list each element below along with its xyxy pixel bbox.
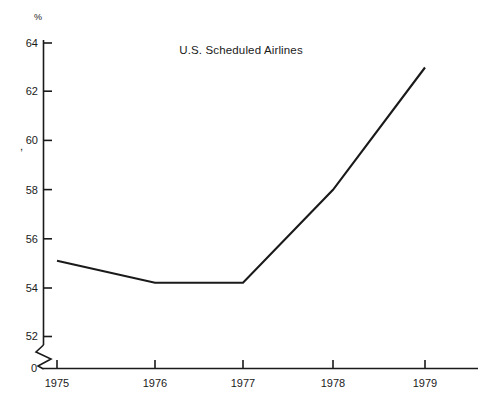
plot-area — [0, 0, 482, 415]
data-line-us-scheduled-airlines — [57, 68, 425, 283]
y-tick-marks — [44, 43, 53, 337]
x-tick-marks — [57, 360, 425, 369]
y-axis-break-symbol — [36, 345, 51, 369]
chart-container: % U.S. Scheduled Airlines , 64 62 60 58 … — [0, 0, 482, 415]
